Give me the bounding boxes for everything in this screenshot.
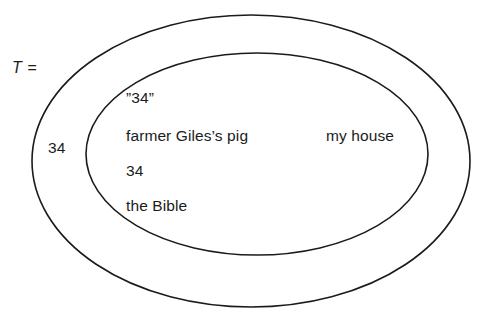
inner-ellipse-boundary xyxy=(86,53,428,255)
outer-ellipse-boundary xyxy=(32,15,470,307)
member-outer-34: 34 xyxy=(48,140,65,156)
member-inner-34: 34 xyxy=(126,163,143,179)
set-name-label: T = xyxy=(12,60,37,76)
member-farmer-giles-pig: farmer Giles’s pig xyxy=(126,128,248,144)
diagram-canvas: T = 34 ”34” farmer Giles’s pig my house … xyxy=(0,0,483,325)
member-the-bible: the Bible xyxy=(126,198,187,214)
euler-diagram-svg xyxy=(0,0,483,325)
member-my-house: my house xyxy=(326,128,394,144)
member-quoted-34: ”34” xyxy=(126,90,154,106)
